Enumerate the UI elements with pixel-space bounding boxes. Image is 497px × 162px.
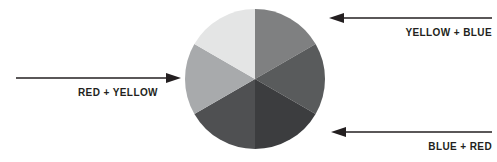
diagram-canvas: RED + YELLOW YELLOW + BLUE BLUE + RED (0, 0, 497, 162)
annotation-yellow-blue: YELLOW + BLUE (329, 12, 492, 46)
annotation-label-red-yellow: RED + YELLOW (78, 87, 158, 98)
arrow-right-icon (16, 72, 181, 84)
arrow-left-icon (329, 12, 492, 24)
color-wheel (184, 8, 326, 150)
annotation-red-yellow: RED + YELLOW (16, 72, 181, 106)
annotation-label-yellow-blue: YELLOW + BLUE (405, 27, 492, 38)
annotation-blue-red: BLUE + RED (331, 126, 492, 160)
arrow-left-icon (331, 126, 492, 138)
color-wheel-svg (184, 8, 326, 150)
annotation-label-blue-red: BLUE + RED (428, 141, 492, 152)
